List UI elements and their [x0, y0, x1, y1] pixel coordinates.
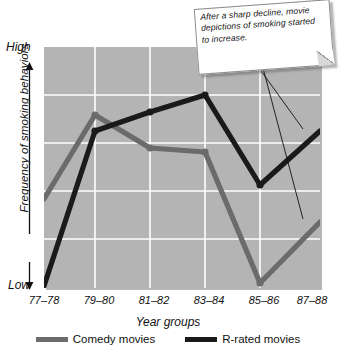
chart-legend: Comedy movies R-rated movies — [0, 333, 336, 345]
x-tick-label-5: 87–88 — [284, 294, 340, 306]
legend-swatch-r-rated-movies — [185, 337, 217, 342]
x-tick-label-2: 81–82 — [126, 294, 182, 306]
x-axis-title: Year groups — [0, 315, 336, 329]
legend-item-comedy-movies: Comedy movies — [36, 333, 155, 345]
legend-label-comedy-movies: Comedy movies — [73, 333, 155, 345]
legend-label-r-rated-movies: R-rated movies — [222, 333, 300, 345]
x-tick-label-0: 77–78 — [16, 294, 72, 306]
legend-swatch-comedy-movies — [36, 337, 68, 342]
legend-item-r-rated-movies: R-rated movies — [185, 333, 300, 345]
x-tick-label-1: 79–80 — [71, 294, 127, 306]
x-tick-label-3: 83–84 — [181, 294, 237, 306]
